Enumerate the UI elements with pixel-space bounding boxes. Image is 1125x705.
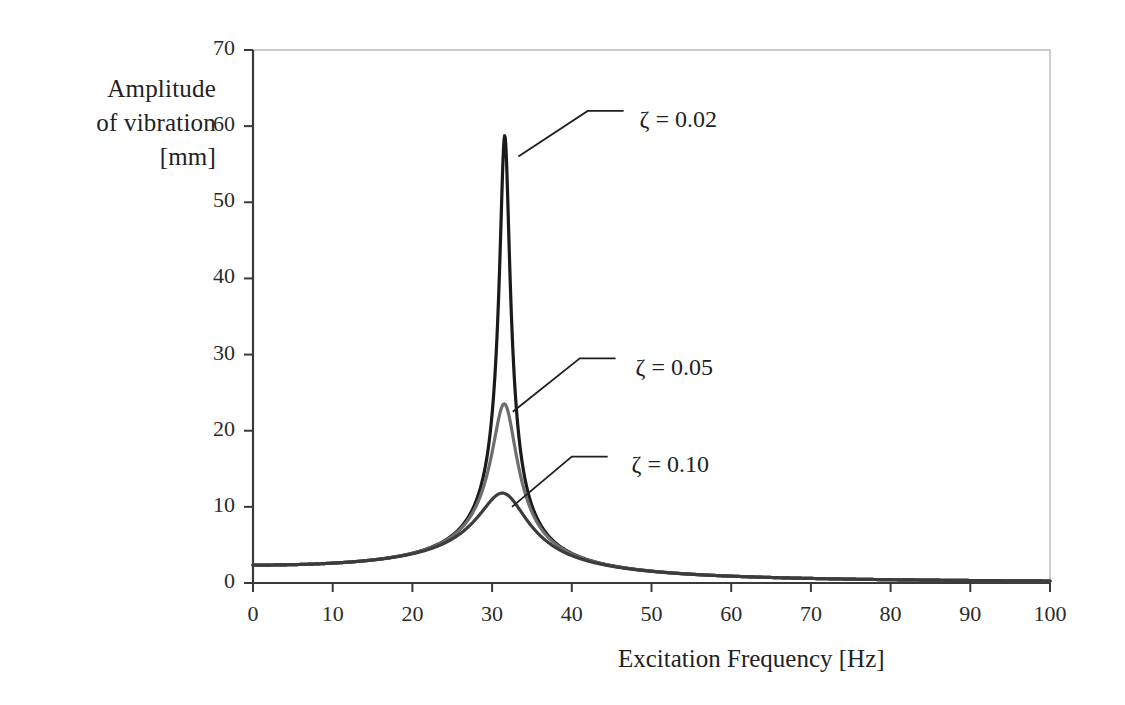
series-annotation-label: ζ = 0.05 <box>636 354 713 381</box>
annotation-leader-line <box>518 111 623 157</box>
series-annotation-label: ζ = 0.02 <box>640 106 717 133</box>
x-tick-label: 10 <box>298 601 368 627</box>
y-tick-label: 0 <box>183 568 235 594</box>
x-tick-label: 60 <box>696 601 766 627</box>
x-tick-label: 0 <box>218 601 288 627</box>
x-axis-title: Excitation Frequency [Hz] <box>618 645 885 673</box>
y-axis-title-line-1: Amplitude <box>28 72 216 106</box>
x-tick-label: 20 <box>377 601 447 627</box>
series-annotation-label: ζ = 0.10 <box>632 451 709 478</box>
annotation-leader-line <box>513 358 616 411</box>
y-tick-label: 30 <box>183 340 235 366</box>
y-tick-label: 50 <box>183 187 235 213</box>
x-tick-label: 40 <box>537 601 607 627</box>
y-axis-title-line-3: [mm] <box>28 140 216 174</box>
x-tick-label: 100 <box>1015 601 1085 627</box>
annotation-leaders <box>512 111 624 507</box>
series-curve <box>253 404 1050 581</box>
y-tick-label: 60 <box>183 111 235 137</box>
x-tick-label: 90 <box>935 601 1005 627</box>
x-tick-label: 80 <box>856 601 926 627</box>
frequency-response-chart: Amplitude of vibration [mm] Excitation F… <box>0 0 1125 705</box>
y-tick-label: 10 <box>183 492 235 518</box>
y-tick-label: 20 <box>183 416 235 442</box>
series-curve <box>253 493 1050 581</box>
y-tick-label: 70 <box>183 35 235 61</box>
y-tick-label: 40 <box>183 263 235 289</box>
x-tick-label: 70 <box>776 601 846 627</box>
x-tick-label: 30 <box>457 601 527 627</box>
x-tick-label: 50 <box>617 601 687 627</box>
